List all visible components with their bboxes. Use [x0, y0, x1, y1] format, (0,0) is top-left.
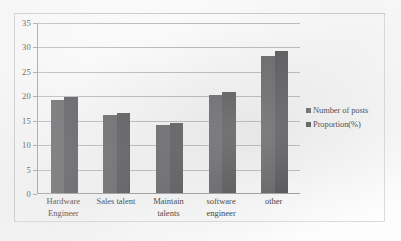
- y-tick-label: 15: [22, 116, 31, 126]
- bar: [209, 95, 223, 193]
- y-tick-label: 20: [22, 91, 31, 101]
- bar: [117, 113, 131, 193]
- x-axis-label-line: engineer: [195, 208, 248, 220]
- x-axis-label-line: Maintain: [142, 196, 195, 208]
- plot-area: 05101520253035: [37, 23, 300, 194]
- bar-group: [261, 23, 288, 193]
- x-axis-category-labels: HardwareEngineerSales talentMaintaintale…: [37, 196, 300, 224]
- x-axis-label-line: software: [195, 196, 248, 208]
- chart-legend: Number of postsProportion(%): [306, 105, 386, 133]
- bar-chart-figure: 05101520253035 HardwareEngineerSales tal…: [0, 0, 401, 241]
- bar: [156, 125, 170, 193]
- bar: [64, 97, 78, 193]
- x-axis-line: [37, 193, 300, 194]
- x-axis-label-line: other: [247, 196, 300, 208]
- bar-group: [103, 23, 130, 193]
- square-marker-icon: [306, 122, 311, 127]
- y-tick-mark: [33, 194, 37, 195]
- y-tick-label: 10: [22, 140, 31, 150]
- x-axis-label-line: Engineer: [37, 208, 90, 220]
- bar: [222, 92, 236, 193]
- x-axis-label: Sales talent: [90, 196, 143, 208]
- x-axis-label: other: [247, 196, 300, 208]
- y-tick-label: 25: [22, 67, 31, 77]
- legend-item[interactable]: Number of posts: [306, 105, 386, 115]
- x-axis-label-line: Sales talent: [90, 196, 143, 208]
- bar: [261, 56, 275, 193]
- y-tick-label: 35: [22, 18, 31, 28]
- bar-group: [51, 23, 78, 193]
- legend-label: Proportion(%): [313, 119, 361, 129]
- x-axis-label: Maintaintalents: [142, 196, 195, 219]
- x-axis-label: HardwareEngineer: [37, 196, 90, 219]
- bar-group: [156, 23, 183, 193]
- bar: [170, 123, 184, 193]
- legend-label: Number of posts: [313, 105, 368, 115]
- x-axis-label-line: talents: [142, 208, 195, 220]
- square-marker-icon: [306, 108, 311, 113]
- bar-group: [209, 23, 236, 193]
- bar: [51, 100, 65, 193]
- legend-item[interactable]: Proportion(%): [306, 119, 386, 129]
- bar: [103, 115, 117, 193]
- y-tick-label: 5: [27, 165, 31, 175]
- y-tick-label: 0: [27, 189, 31, 199]
- bars-layer: [38, 23, 300, 193]
- x-axis-label-line: Hardware: [37, 196, 90, 208]
- y-tick-label: 30: [22, 42, 31, 52]
- x-axis-label: softwareengineer: [195, 196, 248, 219]
- bar: [275, 51, 289, 193]
